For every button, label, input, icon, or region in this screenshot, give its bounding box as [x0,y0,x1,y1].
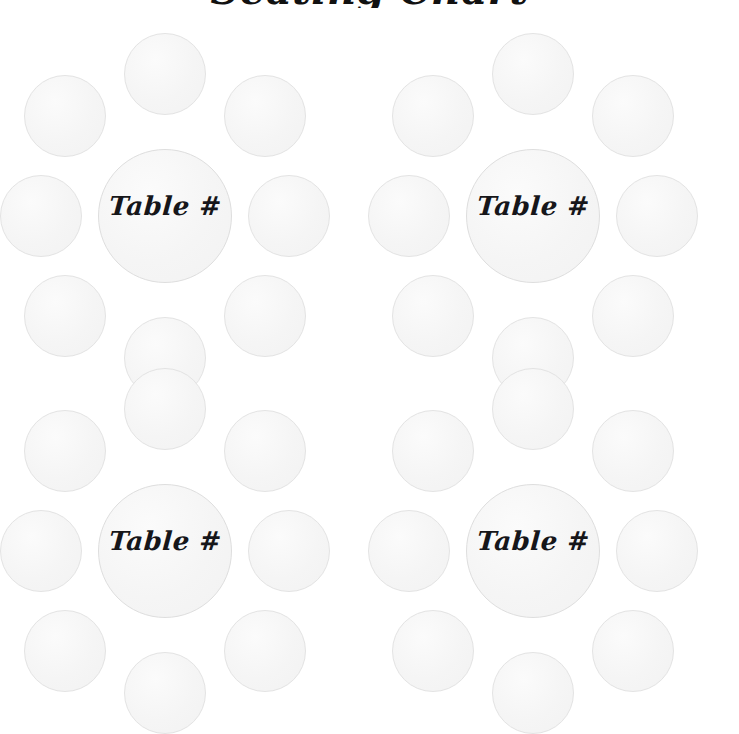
seat-east[interactable] [616,510,698,592]
seat-southeast[interactable] [592,610,674,692]
table-group-4[interactable]: Table # [368,360,698,690]
seat-southwest[interactable] [392,610,474,692]
seat-southwest[interactable] [24,275,106,357]
page-title: Seating Chart [0,0,739,8]
seat-northeast[interactable] [592,75,674,157]
seat-northwest[interactable] [24,75,106,157]
seat-southeast[interactable] [592,275,674,357]
seat-northwest[interactable] [392,410,474,492]
table-top[interactable]: Table # [466,484,600,618]
seat-east[interactable] [248,175,330,257]
seat-north[interactable] [492,368,574,450]
seat-south[interactable] [492,652,574,734]
table-label: Table # [476,192,591,222]
seat-west[interactable] [0,510,82,592]
seat-northwest[interactable] [24,410,106,492]
table-top[interactable]: Table # [98,149,232,283]
table-label: Table # [476,527,591,557]
seat-west[interactable] [368,175,450,257]
seat-northeast[interactable] [224,75,306,157]
seat-southwest[interactable] [392,275,474,357]
seat-north[interactable] [124,33,206,115]
seat-northeast[interactable] [224,410,306,492]
table-label: Table # [108,192,223,222]
table-group-2[interactable]: Table # [368,25,698,355]
table-label: Table # [108,527,223,557]
table-top[interactable]: Table # [466,149,600,283]
seat-north[interactable] [492,33,574,115]
seat-southeast[interactable] [224,275,306,357]
table-top[interactable]: Table # [98,484,232,618]
seat-west[interactable] [0,175,82,257]
seat-southeast[interactable] [224,610,306,692]
seat-east[interactable] [616,175,698,257]
seat-east[interactable] [248,510,330,592]
table-group-1[interactable]: Table # [0,25,330,355]
seat-southwest[interactable] [24,610,106,692]
seat-northeast[interactable] [592,410,674,492]
seat-west[interactable] [368,510,450,592]
seat-north[interactable] [124,368,206,450]
seat-northwest[interactable] [392,75,474,157]
seat-south[interactable] [124,652,206,734]
table-group-3[interactable]: Table # [0,360,330,690]
